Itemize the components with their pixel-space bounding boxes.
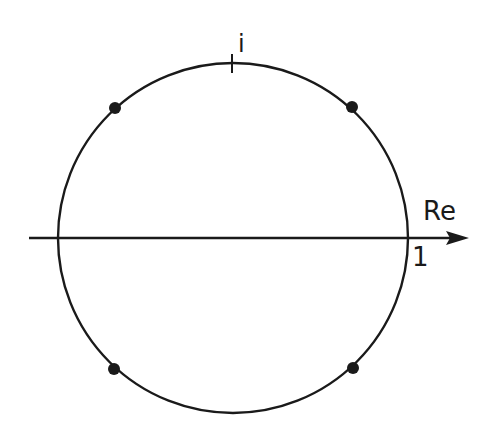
- point-lower-right: [347, 362, 359, 374]
- point-upper-left: [109, 102, 121, 114]
- point-upper-right: [346, 101, 358, 113]
- point-lower-left: [108, 363, 120, 375]
- unit-circle-diagram: i Re 1: [0, 0, 493, 429]
- imaginary-unit-label: i: [238, 30, 245, 58]
- real-axis-label: Re: [423, 196, 456, 226]
- real-unit-label: 1: [412, 242, 429, 272]
